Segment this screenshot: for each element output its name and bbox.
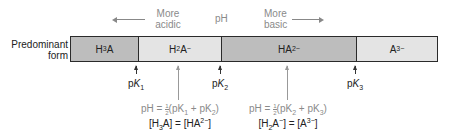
midpoint1-ph-equation: pH = 12(pK1 + pK2) bbox=[140, 103, 220, 116]
basic-direction-arrow bbox=[292, 19, 320, 20]
midpoint2-ph-equation: pH = 12(pK2 + pK3) bbox=[248, 103, 328, 116]
predominant-form-label: Predominant form bbox=[11, 39, 68, 61]
acidic-arrow-head-icon bbox=[112, 17, 117, 23]
pk3-arrow-icon bbox=[355, 66, 356, 74]
midpoint1-arrow-icon bbox=[178, 66, 179, 100]
midpoint2-formula: pH = 12(pK2 + pK3) [H2A−] = [A3−] bbox=[248, 103, 328, 129]
pk2-label: pK2 bbox=[212, 78, 228, 89]
pk2-arrow-icon bbox=[220, 66, 221, 74]
pk1-arrow-icon bbox=[136, 66, 137, 74]
species-bar: H3A H2A− HA2− A3− bbox=[70, 36, 438, 62]
midpoint2-arrow-icon bbox=[287, 66, 288, 100]
more-acidic-label: More acidic bbox=[153, 8, 183, 30]
basic-arrow-head-icon bbox=[319, 17, 324, 23]
midpoint1-formula: pH = 12(pK1 + pK2) [H3A] = [HA2−] bbox=[140, 103, 220, 129]
midpoint1-concentration-equality: [H3A] = [HA2−] bbox=[140, 118, 220, 129]
segment-ha: HA2− bbox=[221, 37, 356, 61]
segment-h3a: H3A bbox=[71, 37, 138, 61]
pk1-label: pK1 bbox=[128, 78, 144, 89]
ph-axis-label: pH bbox=[215, 13, 228, 24]
midpoint2-concentration-equality: [H2A−] = [A3−] bbox=[248, 118, 328, 129]
acidic-direction-arrow bbox=[115, 19, 145, 20]
segment-h2a: H2A− bbox=[138, 37, 221, 61]
more-basic-label: More basic bbox=[264, 8, 287, 30]
segment-a: A3− bbox=[356, 37, 437, 61]
pk3-label: pK3 bbox=[347, 78, 363, 89]
